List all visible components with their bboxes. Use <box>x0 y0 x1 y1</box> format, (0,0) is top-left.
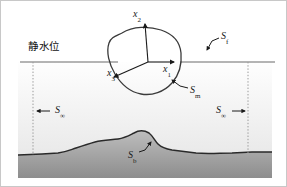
surface-infinity-right-subscript: ∞ <box>221 112 226 120</box>
axis-x3-label: x3 <box>107 68 115 78</box>
surface-bed-subscript: b <box>133 157 137 165</box>
axis-x2-subscript: 2 <box>137 16 141 24</box>
surface-body-subscript: m <box>195 92 200 100</box>
axis-x2-label: x2 <box>133 9 141 19</box>
axis-x1-label: x1 <box>163 64 171 74</box>
axis-x3-subscript: 3 <box>111 75 115 83</box>
schematic-diagram <box>0 0 287 187</box>
surface-body-label: Sm <box>190 85 200 95</box>
surface-infinity-right-label: S∞ <box>216 105 226 115</box>
figure-container: 静水位 x2 x1 x3 Sf Sm S∞ S∞ Sb <box>0 0 287 187</box>
axis-x1-subscript: 1 <box>167 71 171 79</box>
surface-infinity-left-subscript: ∞ <box>60 112 65 120</box>
surface-free-label: Sf <box>221 31 228 41</box>
still-water-level-label: 静水位 <box>28 41 60 52</box>
surface-free-subscript: f <box>226 38 228 46</box>
surface-bed-label: Sb <box>128 150 137 160</box>
surface-infinity-left-label: S∞ <box>55 105 65 115</box>
